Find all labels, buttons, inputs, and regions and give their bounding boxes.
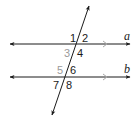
transversal-line (52, 6, 89, 115)
angle-6-label: 6 (70, 64, 76, 76)
parallel-lines-transversal-diagram: a b 1 2 3 4 5 6 7 8 (0, 0, 140, 120)
angle-7-label: 7 (53, 79, 59, 91)
line-a-label: a (124, 29, 130, 43)
angle-8-label: 8 (66, 79, 72, 91)
angle-2-label: 2 (82, 32, 88, 44)
angle-5-label: 5 (57, 64, 63, 76)
angle-3-label: 3 (64, 47, 70, 59)
angle-1-label: 1 (70, 32, 76, 44)
line-b-label: b (124, 62, 130, 76)
angle-4-label: 4 (77, 47, 83, 59)
